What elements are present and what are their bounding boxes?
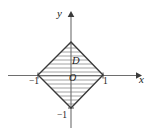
y-axis-arrowhead xyxy=(68,11,75,17)
y-axis-label: y xyxy=(57,8,62,19)
coordinate-plot xyxy=(0,0,154,135)
x-tick-label-positive-one: 1 xyxy=(103,77,108,87)
y-tick-label-negative-one: −1 xyxy=(57,111,67,121)
region-d-label: D xyxy=(72,56,80,67)
origin-label: O xyxy=(69,73,76,83)
x-axis-label: x xyxy=(139,74,144,85)
x-tick-label-negative-one: −1 xyxy=(29,77,39,87)
y-axis xyxy=(68,11,75,128)
math-figure: y x D O 1 −1 −1 xyxy=(0,0,154,135)
